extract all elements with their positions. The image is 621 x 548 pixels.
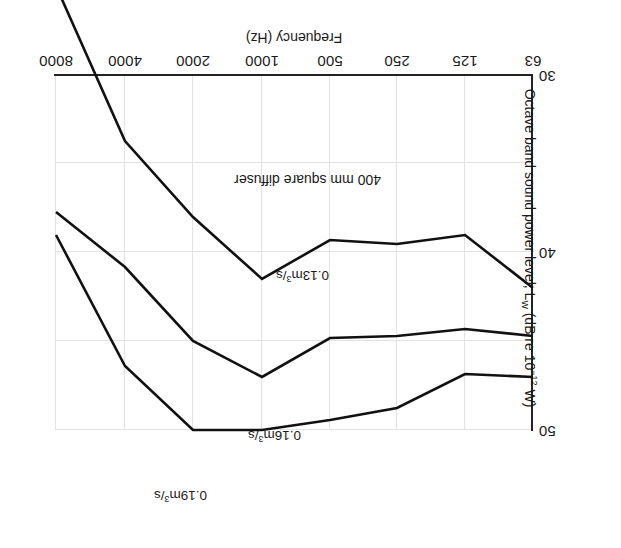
series-label-0-19-exp: 3 xyxy=(164,494,169,504)
series-label-0-19-value: 0.19 xyxy=(181,488,207,503)
series-label-0-13-value: 0.13 xyxy=(303,268,329,283)
ytick-label-50: 50 xyxy=(539,423,571,440)
y-axis-title-part1: Octave band sound power level, L xyxy=(522,89,538,301)
y-axis-title-part2: (dB re 10 xyxy=(522,309,538,370)
series-label-0-13-exp: 3 xyxy=(286,274,291,284)
y-axis-title-part3: W) xyxy=(522,386,538,408)
xtick-label-250: 250 xyxy=(367,53,427,70)
x-axis-title: Frequency (Hz) xyxy=(55,30,533,46)
ytick-label-30: 30 xyxy=(539,68,571,85)
series-label-0-16-exp: 3 xyxy=(258,434,263,444)
series-label-0-19-unit: m xyxy=(169,488,180,503)
ytick-label-40: 40 xyxy=(539,245,571,262)
series-label-0-16-value: 0.16 xyxy=(275,428,301,443)
series-line-0-19 xyxy=(56,235,533,430)
y-axis-title-subscript: w xyxy=(520,300,533,308)
series-label-0-16: 0.16m3/s xyxy=(248,428,301,445)
series-label-0-16-den: /s xyxy=(248,428,259,443)
series-label-0-13-den: /s xyxy=(276,268,287,283)
rotated-figure-container: 63 125 250 500 1000 2000 4000 8000 30 40… xyxy=(0,0,621,548)
series-label-0-13-unit: m xyxy=(291,268,302,283)
xtick-label-1000: 1000 xyxy=(232,53,292,70)
series-label-0-16-unit: m xyxy=(263,428,274,443)
diffuser-annotation: 400 mm square diffuser xyxy=(234,172,381,188)
xtick-label-125: 125 xyxy=(435,53,495,70)
series-label-0-19-den: /s xyxy=(154,488,165,503)
y-axis-title: Octave band sound power level, Lw (dB re… xyxy=(520,28,539,468)
series-label-0-19: 0.19m3/s xyxy=(154,488,207,505)
y-axis-title-superscript: −12 xyxy=(529,370,539,385)
xtick-label-8000: 8000 xyxy=(26,53,86,70)
xtick-label-2000: 2000 xyxy=(163,53,223,70)
xtick-label-500: 500 xyxy=(300,53,360,70)
xtick-label-4000: 4000 xyxy=(95,53,155,70)
series-label-0-13: 0.13m3/s xyxy=(276,268,329,285)
chart-figure: 63 125 250 500 1000 2000 4000 8000 30 40… xyxy=(0,0,621,548)
